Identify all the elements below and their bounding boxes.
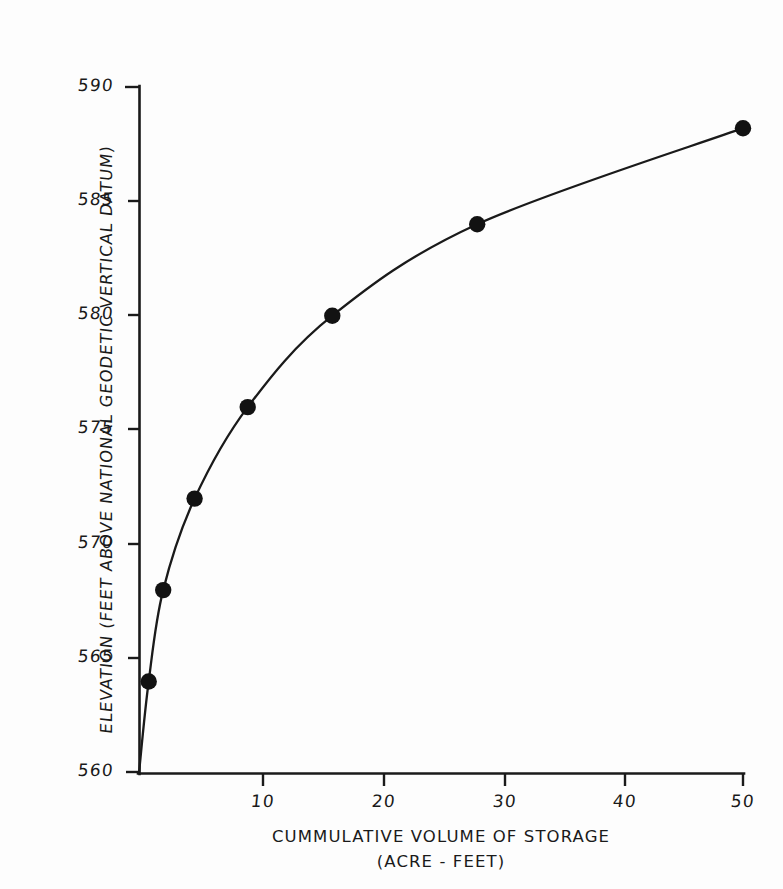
data-curve xyxy=(139,128,743,773)
data-point xyxy=(240,399,256,415)
x-tick-label-50: 50 xyxy=(717,791,769,811)
chart-canvas xyxy=(0,0,783,889)
x-axis-title: CUMMULATIVE VOLUME OF STORAGE (ACRE - FE… xyxy=(139,824,743,874)
y-tick-marks xyxy=(125,87,139,772)
axis-lines xyxy=(138,86,744,774)
data-point xyxy=(735,120,751,136)
data-point xyxy=(141,673,157,689)
x-tick-marks xyxy=(263,773,743,786)
y-axis-title: ELEVATION (FEET ABOVE NATIONAL GEODETIC … xyxy=(97,69,116,811)
data-point xyxy=(186,490,202,506)
x-tick-label-20: 20 xyxy=(358,791,410,811)
x-axis-title-line-2: (ACRE - FEET) xyxy=(139,849,743,874)
data-point-markers xyxy=(141,120,752,690)
data-point xyxy=(469,216,485,232)
x-axis-title-line-1: CUMMULATIVE VOLUME OF STORAGE xyxy=(272,827,610,846)
data-point xyxy=(155,582,171,598)
x-tick-label-10: 10 xyxy=(237,791,289,811)
chart-page: 590 585 580 575 570 565 560 10 20 30 40 … xyxy=(0,0,783,889)
data-point xyxy=(324,308,340,324)
x-tick-label-30: 30 xyxy=(479,791,531,811)
x-tick-label-40: 40 xyxy=(599,791,651,811)
